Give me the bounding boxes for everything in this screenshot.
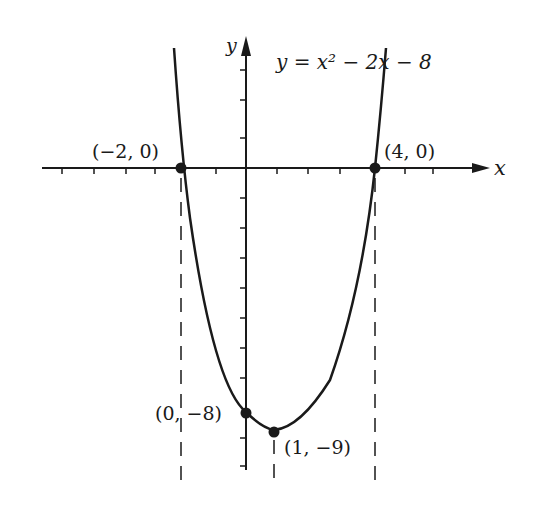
point-label-vertex: (1, −9) — [284, 436, 351, 458]
point-label-4-0: (4, 0) — [384, 140, 435, 162]
point-0-neg8 — [241, 408, 252, 419]
point-label-0-neg8: (0, −8) — [155, 402, 222, 424]
point-4-0 — [370, 163, 381, 174]
x-axis-label: x — [494, 156, 506, 180]
parabola-graph — [0, 0, 538, 516]
point-label-neg2-0: (−2, 0) — [92, 140, 159, 162]
y-axis-label: y — [226, 34, 237, 56]
y-axis-arrow-icon — [241, 36, 251, 56]
point-vertex — [269, 427, 280, 438]
equation-label: y = x² − 2x − 8 — [276, 50, 432, 74]
x-axis-arrow-icon — [472, 163, 490, 173]
point-neg2-0 — [176, 163, 187, 174]
parabola-curve — [174, 48, 386, 430]
